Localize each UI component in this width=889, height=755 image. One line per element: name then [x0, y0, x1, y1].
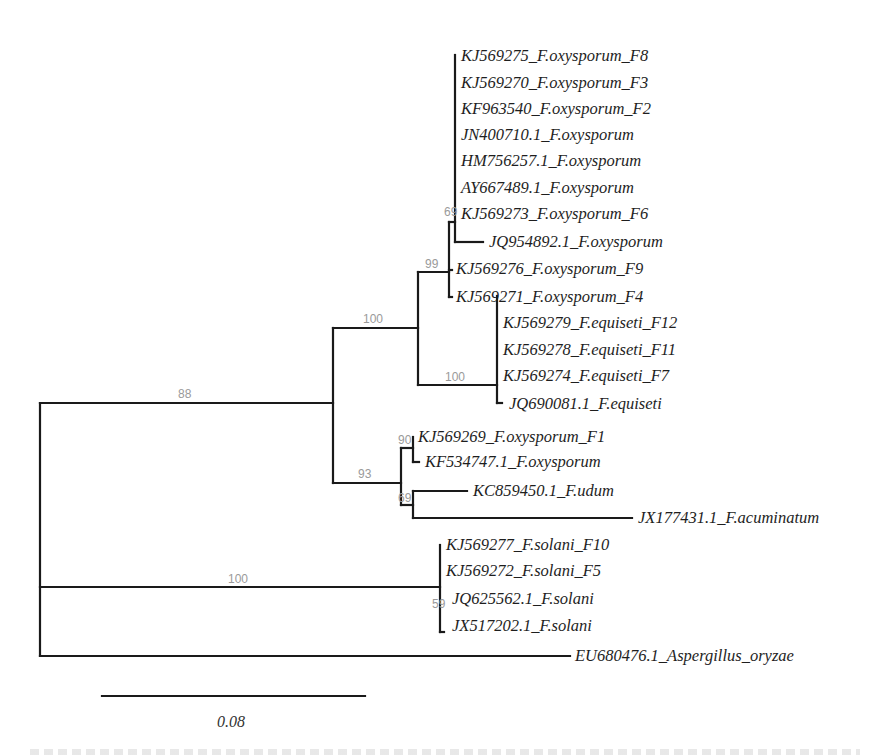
tip-label: AY667489.1_F.oxysporum	[460, 178, 634, 197]
bootstrap-value: 100	[445, 370, 465, 384]
tip-label: KF963540_F.oxysporum_F2	[460, 99, 651, 118]
tip-label: KJ569278_F.equiseti_F11	[502, 340, 676, 359]
tip-label: KC859450.1_F.udum	[472, 481, 614, 500]
scale-bar-label: 0.08	[217, 713, 245, 730]
tip-label: KJ569276_F.oxysporum_F9	[455, 259, 643, 278]
bootstrap-value: 59	[432, 597, 446, 611]
tip-labels: KJ569275_F.oxysporum_F8 KJ569270_F.oxysp…	[417, 46, 819, 665]
tip-label: JQ625562.1_F.solani	[452, 589, 594, 608]
bootstrap-values: 88 100 99 69 100 93 90 69 100 59	[178, 205, 465, 611]
tip-label: HM756257.1_F.oxysporum	[460, 151, 641, 170]
tip-label: KJ569273_F.oxysporum_F6	[460, 204, 649, 223]
bootstrap-value: 93	[358, 467, 372, 481]
tip-label: JN400710.1_F.oxysporum	[461, 125, 634, 144]
tip-label: JQ954892.1_F.oxysporum	[489, 232, 663, 251]
clipped-caption	[30, 749, 860, 755]
bootstrap-value: 90	[398, 433, 412, 447]
bootstrap-value: 88	[178, 387, 192, 401]
tip-label: KJ569270_F.oxysporum_F3	[460, 73, 648, 92]
tip-label: KJ569271_F.oxysporum_F4	[455, 287, 643, 306]
tip-label: KJ569277_F.solani_F10	[445, 535, 610, 554]
bootstrap-value: 99	[425, 257, 439, 271]
tip-label: KJ569274_F.equiseti_F7	[502, 366, 670, 385]
tip-label: KJ569272_F.solani_F5	[445, 561, 601, 580]
bootstrap-value: 69	[444, 205, 458, 219]
tip-label: JX517202.1_F.solani	[452, 616, 592, 635]
tip-label: KJ569275_F.oxysporum_F8	[460, 46, 649, 65]
tip-label: EU680476.1_Aspergillus_oryzae	[574, 646, 794, 665]
tip-label: JX177431.1_F.acuminatum	[638, 508, 819, 527]
bootstrap-value: 69	[398, 491, 412, 505]
tip-label: KJ569279_F.equiseti_F12	[502, 313, 677, 332]
scale-bar: 0.08	[102, 696, 365, 730]
tip-label: KJ569269_F.oxysporum_F1	[417, 427, 605, 446]
tip-label: JQ690081.1_F.equiseti	[509, 394, 662, 413]
bootstrap-value: 100	[363, 312, 383, 326]
bootstrap-value: 100	[228, 572, 248, 586]
tip-label: KF534747.1_F.oxysporum	[424, 452, 601, 471]
